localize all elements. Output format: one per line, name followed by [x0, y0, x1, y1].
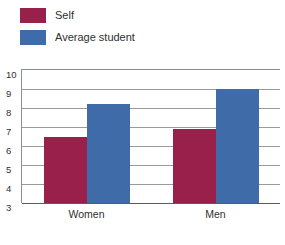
- y-tick-label-7: 7: [6, 127, 22, 137]
- legend-label-average-student: Average student: [55, 31, 135, 43]
- legend-swatch-average-student-icon: [20, 30, 46, 45]
- y-tick-label-5: 5: [6, 165, 22, 175]
- y-axis: 109876543: [6, 62, 22, 210]
- x-axis-labels: WomenMen: [22, 208, 280, 226]
- legend-item-self: Self: [20, 4, 220, 26]
- legend-label-self: Self: [55, 9, 74, 21]
- bar-men-self: [173, 129, 216, 203]
- x-axis-label-women: Women: [69, 208, 105, 220]
- y-tick-label-3: 3: [6, 203, 22, 213]
- y-tick-label-6: 6: [6, 146, 22, 156]
- plot-area: [22, 69, 280, 204]
- legend-swatch-self-icon: [20, 8, 46, 23]
- y-tick-label-9: 9: [6, 89, 22, 99]
- x-axis-label-men: Men: [205, 208, 225, 220]
- bar-men-average-student: [216, 89, 259, 203]
- legend-item-average-student: Average student: [20, 26, 220, 48]
- bar-women-self: [44, 137, 87, 204]
- y-tick-label-8: 8: [6, 108, 22, 118]
- y-tick-label-4: 4: [6, 184, 22, 194]
- bar-women-average-student: [87, 104, 130, 203]
- y-tick-label-10: 10: [6, 70, 22, 80]
- bar-series-group: [22, 70, 280, 203]
- chart-legend: Self Average student: [20, 4, 220, 48]
